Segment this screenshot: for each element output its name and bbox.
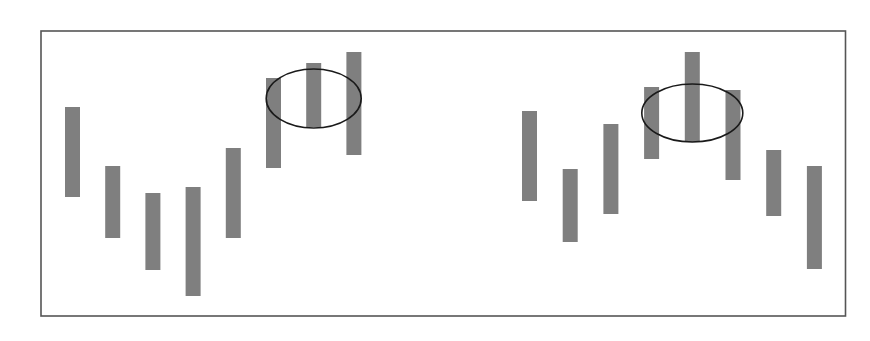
chart-frame <box>41 31 846 316</box>
left-bar-4 <box>186 187 201 296</box>
right-bar-4 <box>644 87 659 159</box>
panel-right <box>522 52 822 269</box>
right-bar-2 <box>563 169 578 242</box>
left-bar-8 <box>346 52 361 155</box>
left-bar-5 <box>226 148 241 238</box>
right-bar-3 <box>603 124 618 214</box>
left-bar-3 <box>145 193 160 270</box>
chart-canvas <box>0 0 870 341</box>
left-bar-1 <box>65 107 80 197</box>
left-bar-7 <box>306 63 321 127</box>
right-bar-1 <box>522 111 537 201</box>
left-bar-2 <box>105 166 120 238</box>
right-bar-7 <box>766 150 781 216</box>
right-bar-5 <box>685 52 700 142</box>
right-bar-6 <box>726 90 741 180</box>
right-bar-8 <box>807 166 822 269</box>
panel-left <box>65 52 361 296</box>
